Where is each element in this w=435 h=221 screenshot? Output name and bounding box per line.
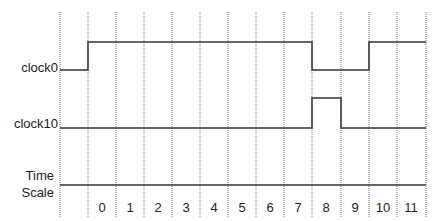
- time-tick: 11: [397, 200, 425, 215]
- time-tick: 8: [312, 200, 340, 215]
- time-tick: 3: [172, 200, 200, 215]
- time-tick: 9: [341, 200, 369, 215]
- time-tick: 0: [88, 200, 116, 215]
- grid-lines: [60, 12, 426, 218]
- time-tick: 1: [116, 200, 144, 215]
- clock0-waveform: [60, 42, 426, 70]
- time-tick: 5: [228, 200, 256, 215]
- timing-diagram: [0, 0, 435, 221]
- time-tick: 10: [369, 200, 397, 215]
- time-tick: 7: [284, 200, 312, 215]
- time-tick: 4: [200, 200, 228, 215]
- time-tick: 2: [144, 200, 172, 215]
- clock10-waveform: [60, 98, 426, 128]
- time-tick: 6: [256, 200, 284, 215]
